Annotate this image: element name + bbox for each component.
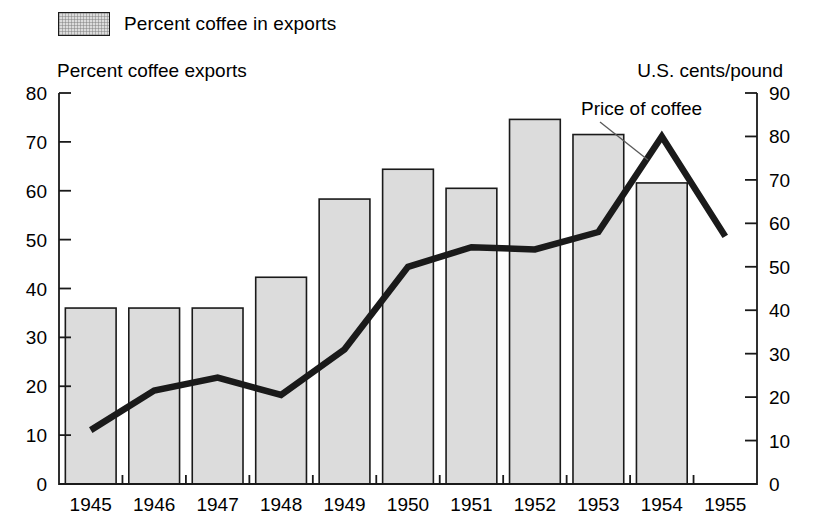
x-tick-label-1955: 1955 — [704, 494, 746, 515]
right-tick-label-30: 30 — [769, 344, 790, 365]
left-tick-label-20: 20 — [26, 376, 47, 397]
bar-1949 — [319, 199, 370, 484]
chart-figure: Percent coffee in exports Percent coffee… — [0, 0, 821, 526]
right-tick-label-90: 90 — [769, 83, 790, 104]
bar-1952 — [510, 119, 561, 484]
right-tick-label-60: 60 — [769, 213, 790, 234]
bar-1950 — [383, 169, 434, 484]
left-tick-label-60: 60 — [26, 181, 47, 202]
x-tick-label-1952: 1952 — [514, 494, 556, 515]
bar-1954 — [636, 183, 687, 484]
right-tick-label-0: 0 — [769, 474, 780, 495]
right-tick-label-70: 70 — [769, 170, 790, 191]
bar-1953 — [573, 135, 624, 484]
left-tick-label-50: 50 — [26, 230, 47, 251]
left-tick-label-30: 30 — [26, 327, 47, 348]
bar-1947 — [192, 308, 243, 484]
left-tick-label-70: 70 — [26, 132, 47, 153]
bar-1945 — [65, 308, 116, 484]
x-tick-label-1945: 1945 — [70, 494, 112, 515]
x-tick-label-1950: 1950 — [387, 494, 429, 515]
left-tick-label-40: 40 — [26, 279, 47, 300]
bar-1951 — [446, 188, 497, 484]
right-tick-label-80: 80 — [769, 126, 790, 147]
right-tick-label-40: 40 — [769, 300, 790, 321]
x-tick-label-1948: 1948 — [260, 494, 302, 515]
x-tick-label-1947: 1947 — [196, 494, 238, 515]
x-tick-label-1954: 1954 — [641, 494, 684, 515]
right-tick-label-20: 20 — [769, 387, 790, 408]
x-tick-label-1949: 1949 — [323, 494, 365, 515]
x-tick-label-1951: 1951 — [450, 494, 492, 515]
left-tick-label-80: 80 — [26, 83, 47, 104]
bars-group — [65, 119, 687, 484]
x-tick-label-1953: 1953 — [577, 494, 619, 515]
bar-1946 — [129, 308, 180, 484]
right-tick-label-50: 50 — [769, 257, 790, 278]
x-tick-label-1946: 1946 — [133, 494, 175, 515]
left-tick-label-10: 10 — [26, 425, 47, 446]
plot-area: 0102030405060708001020304050607080901945… — [0, 0, 821, 526]
right-tick-label-10: 10 — [769, 431, 790, 452]
left-tick-label-0: 0 — [36, 474, 47, 495]
